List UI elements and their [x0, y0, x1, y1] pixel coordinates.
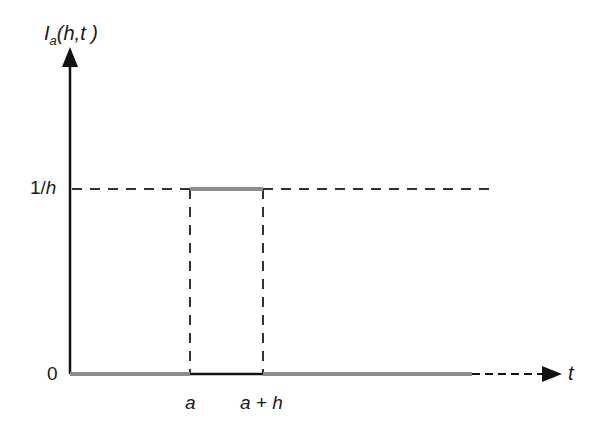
- x-axis-label: t: [568, 362, 574, 385]
- y-axis-label: Ia(h,t ): [44, 22, 98, 48]
- y-label-sub: a: [50, 33, 57, 48]
- y-axis-arrow-icon: [62, 47, 78, 67]
- y-tick-high: 1/h: [30, 177, 56, 199]
- y-tick-high-var: h: [46, 177, 57, 198]
- y-tick-zero: 0: [47, 363, 58, 385]
- x-tick-a-plus-h: a + h: [240, 392, 283, 414]
- x-axis-arrow-icon: [542, 366, 562, 382]
- y-tick-high-num: 1/: [30, 177, 46, 198]
- pulse-diagram: [0, 0, 602, 422]
- x-tick-a: a: [185, 392, 196, 414]
- y-label-args: (h,t ): [57, 22, 98, 44]
